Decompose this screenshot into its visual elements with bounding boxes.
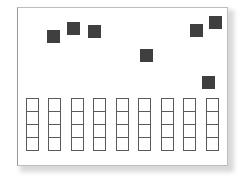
empty-cell bbox=[206, 111, 219, 125]
dark-square bbox=[202, 76, 215, 89]
empty-cell bbox=[138, 137, 151, 151]
empty-cell bbox=[161, 98, 174, 112]
empty-cell bbox=[48, 124, 61, 138]
empty-cell bbox=[183, 111, 196, 125]
empty-cell bbox=[161, 111, 174, 125]
cell-column bbox=[161, 98, 174, 151]
empty-cell bbox=[206, 98, 219, 112]
empty-cell bbox=[116, 98, 129, 112]
empty-cell bbox=[161, 137, 174, 151]
cell-column bbox=[71, 98, 84, 151]
dark-square bbox=[209, 16, 222, 29]
cell-column bbox=[116, 98, 129, 151]
empty-cell bbox=[116, 137, 129, 151]
dark-square bbox=[140, 49, 153, 62]
empty-cell bbox=[138, 111, 151, 125]
empty-cell bbox=[138, 124, 151, 138]
cell-column bbox=[26, 98, 39, 151]
empty-cell bbox=[138, 98, 151, 112]
empty-cell bbox=[206, 137, 219, 151]
empty-cell bbox=[161, 124, 174, 138]
cell-column bbox=[48, 98, 61, 151]
empty-cell bbox=[183, 98, 196, 112]
empty-cell bbox=[48, 98, 61, 112]
empty-cell bbox=[71, 124, 84, 138]
empty-cell bbox=[116, 124, 129, 138]
dark-square bbox=[47, 30, 60, 43]
empty-cell bbox=[26, 137, 39, 151]
empty-cell bbox=[71, 137, 84, 151]
empty-cell bbox=[26, 124, 39, 138]
empty-cell bbox=[26, 98, 39, 112]
empty-cell bbox=[48, 111, 61, 125]
dark-square bbox=[67, 22, 80, 35]
cell-column bbox=[138, 98, 151, 151]
empty-cell bbox=[183, 137, 196, 151]
cell-column bbox=[206, 98, 219, 151]
empty-cell bbox=[71, 111, 84, 125]
empty-cell bbox=[183, 124, 196, 138]
dark-square bbox=[190, 24, 203, 37]
empty-cell bbox=[48, 137, 61, 151]
empty-cell bbox=[71, 98, 84, 112]
dark-square bbox=[88, 25, 101, 38]
empty-cell bbox=[93, 111, 106, 125]
empty-cell bbox=[93, 98, 106, 112]
empty-cell bbox=[93, 137, 106, 151]
empty-cell bbox=[116, 111, 129, 125]
empty-cell bbox=[26, 111, 39, 125]
empty-cell bbox=[206, 124, 219, 138]
cell-column bbox=[183, 98, 196, 151]
cell-column bbox=[93, 98, 106, 151]
empty-cell bbox=[93, 124, 106, 138]
